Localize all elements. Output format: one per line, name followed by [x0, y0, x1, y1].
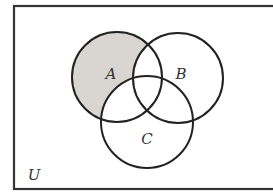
set-c-label: C	[141, 130, 153, 148]
venn-diagram: A B C U	[0, 0, 273, 192]
set-a-label: A	[104, 65, 117, 83]
universe-label: U	[28, 166, 42, 184]
set-b-label: B	[174, 65, 186, 83]
